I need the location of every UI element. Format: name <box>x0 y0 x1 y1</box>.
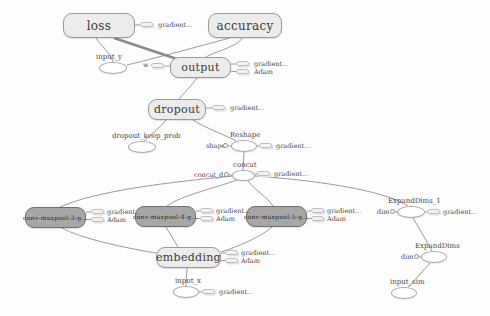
summary-inputx-gradient-label: gradient... <box>219 288 253 296</box>
op-input_y-label: input_y <box>96 53 122 61</box>
const-dim1-icon[interactable] <box>390 209 395 214</box>
summary-dropout-gradient-icon[interactable] <box>212 105 225 110</box>
op-reshape[interactable] <box>231 140 257 152</box>
summary-output-gradient-label: gradient... <box>254 60 288 68</box>
tensorboard-graph-canvas: loss accuracy output dropout embedding c… <box>0 0 490 316</box>
summary-dropout-gradient-label: gradient... <box>230 104 264 112</box>
op-input_sim[interactable] <box>391 287 417 299</box>
edge-accuracy-output <box>206 38 242 57</box>
summary-conv5-adam-label: Adam <box>327 215 346 223</box>
node-loss-label: loss <box>87 19 112 33</box>
summary-concat-gradient-icon[interactable] <box>257 171 270 176</box>
node-conv-maxpool-4[interactable]: conv-maxpool-4-g... <box>135 206 196 227</box>
summary-conv3-gradient-label: gradient... <box>107 208 141 216</box>
op-dropout_keep_prob-label: dropout_keep_prob <box>112 132 181 140</box>
const-dim2-icon[interactable] <box>414 254 419 259</box>
edge-conv4-concat <box>167 180 237 206</box>
summary-conv3-gradient-icon[interactable] <box>91 209 104 214</box>
edge-loss-output <box>114 38 180 60</box>
const-dim1-label: dim <box>377 208 389 216</box>
op-concat-label: concat <box>233 161 257 169</box>
summary-conv4-gradient-label: gradient... <box>216 207 250 215</box>
summary-loss-gradient-icon[interactable] <box>140 22 153 27</box>
op-dropout_keep_prob[interactable] <box>128 141 156 153</box>
summary-conv5-adam-icon[interactable] <box>311 216 324 221</box>
node-embedding[interactable]: embedding <box>156 247 221 268</box>
node-embedding-label: embedding <box>156 251 221 264</box>
summary-expanddims1-gradient-icon[interactable] <box>427 209 440 214</box>
edge-conv3-concat <box>60 176 233 207</box>
summary-embedding-gradient-icon[interactable] <box>225 250 238 255</box>
node-dropout-label: dropout <box>154 103 200 116</box>
summary-conv4-adam-icon[interactable] <box>200 216 213 221</box>
summary-conv4-gradient-icon[interactable] <box>200 208 213 213</box>
summary-embedding-adam-icon[interactable] <box>225 258 238 263</box>
edge-output-dropout <box>179 78 197 99</box>
node-accuracy-label: accuracy <box>216 19 273 33</box>
summary-conv3-adam-icon[interactable] <box>91 217 104 222</box>
const-dim2-label: dim <box>401 253 413 261</box>
op-expanddims[interactable] <box>421 251 447 263</box>
summary-loss-gradient-label: gradient... <box>158 21 192 29</box>
summary-conv5-gradient-icon[interactable] <box>311 208 324 213</box>
summary-embedding-gradient-label: gradient... <box>241 249 275 257</box>
summary-conv3-adam-label: Adam <box>107 216 126 224</box>
op-expanddims_1-label: ExpandDims_1 <box>388 197 441 205</box>
op-expanddims-label: ExpandDims <box>415 242 460 250</box>
node-conv-maxpool-3-label: conv-maxpool-3-g... <box>23 214 88 221</box>
op-input_y[interactable] <box>99 62 127 74</box>
const-w-label: w <box>143 61 149 69</box>
graph-edges <box>0 0 490 316</box>
op-input_x[interactable] <box>173 286 199 298</box>
summary-output-adam-label: Adam <box>254 68 273 76</box>
summary-conv5-gradient-label: gradient... <box>327 207 361 215</box>
summary-embedding-adam-label: Adam <box>241 257 260 265</box>
edge-embedding-conv3 <box>62 228 156 253</box>
summary-output-adam-icon[interactable] <box>236 69 249 74</box>
node-output-label: output <box>181 61 219 74</box>
edge-expanddims1-concat <box>255 176 408 206</box>
summary-reshape-gradient-label: gradient... <box>276 142 310 150</box>
node-conv-maxpool-5-label: conv-maxpool-5-g... <box>244 213 309 220</box>
edge-conv4-embedding <box>166 227 178 247</box>
op-reshape-label: Reshape <box>230 131 260 139</box>
summary-inputx-gradient-icon[interactable] <box>202 289 215 294</box>
summary-reshape-gradient-icon[interactable] <box>259 143 272 148</box>
op-expanddims_1[interactable] <box>397 206 425 218</box>
node-loss[interactable]: loss <box>63 13 135 38</box>
edge-conv5-concat <box>248 181 273 206</box>
node-dropout[interactable]: dropout <box>148 99 206 120</box>
const-w-icon[interactable] <box>151 63 164 68</box>
summary-conv4-adam-label: Adam <box>216 215 235 223</box>
const-concat_d-icon[interactable] <box>224 172 229 177</box>
node-conv-maxpool-3[interactable]: conv-maxpool-3-g... <box>25 207 86 228</box>
op-concat[interactable] <box>232 170 255 181</box>
op-input_sim-label: input_sim <box>390 278 425 286</box>
node-accuracy[interactable]: accuracy <box>208 13 282 38</box>
op-input_x-label: input_x <box>175 277 201 285</box>
node-output[interactable]: output <box>170 57 231 78</box>
summary-expanddims1-gradient-label: gradient... <box>443 208 477 216</box>
const-shape-icon[interactable] <box>223 143 228 148</box>
summary-concat-gradient-label: gradient... <box>274 170 308 178</box>
node-conv-maxpool-5[interactable]: conv-maxpool-5-g... <box>246 206 307 227</box>
summary-output-gradient-icon[interactable] <box>236 61 249 66</box>
node-conv-maxpool-4-label: conv-maxpool-4-g... <box>133 213 198 220</box>
